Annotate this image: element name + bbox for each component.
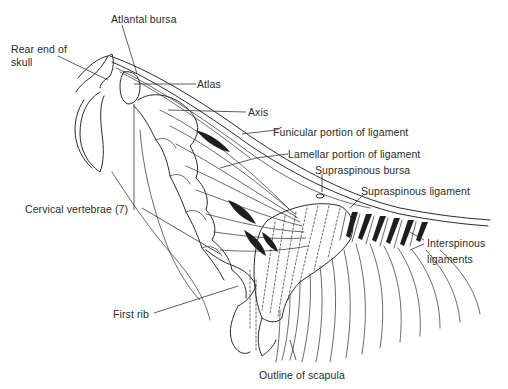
supraspinous-bursa-shape [316, 194, 324, 198]
label-atlas: Atlas [197, 78, 221, 90]
scapula-dashed-lines [250, 206, 340, 350]
cranium [80, 92, 104, 172]
label-interspinous-line2: ligaments [427, 253, 473, 265]
label-interspinous-line1: Interspinous [427, 237, 485, 249]
label-supraspinous-bursa: Supraspinous bursa [315, 164, 410, 176]
label-rear-end-of-skull-line1: Rear end of [11, 43, 67, 55]
nuchal-ligament-diagram: Atlantal bursa Rear end of skull Atlas A… [0, 0, 508, 389]
label-first-rib: First rib [113, 308, 149, 320]
label-rear-end-of-skull-line2: skull [11, 56, 33, 68]
label-axis: Axis [248, 106, 268, 118]
label-lamellar-portion: Lamellar portion of ligament [288, 148, 420, 160]
atlas-bone [120, 72, 140, 104]
cervical-vertebrae-chain [138, 95, 246, 298]
label-atlantal-bursa: Atlantal bursa [111, 13, 177, 25]
label-cervical-vertebrae: Cervical vertebrae (7) [25, 203, 128, 215]
label-funicular-portion: Funicular portion of ligament [273, 126, 408, 138]
label-outline-of-scapula: Outline of scapula [259, 369, 345, 381]
neck-outline [112, 172, 210, 320]
label-supraspinous-ligament: Supraspinous ligament [361, 185, 470, 197]
